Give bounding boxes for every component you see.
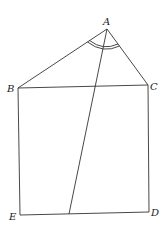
segment-ab: [18, 29, 107, 88]
geometry-diagram: A B C D E: [0, 0, 166, 226]
label-d: D: [150, 207, 159, 218]
label-a: A: [102, 16, 110, 27]
segment-cd: [148, 85, 149, 212]
segment-ac: [107, 29, 148, 85]
label-e: E: [8, 211, 17, 222]
label-b: B: [6, 83, 14, 94]
segment-bc: [18, 85, 148, 88]
segment-be: [18, 88, 20, 215]
segment-a-to-ed: [69, 29, 107, 214]
label-c: C: [150, 81, 158, 92]
segment-ed: [20, 212, 149, 215]
